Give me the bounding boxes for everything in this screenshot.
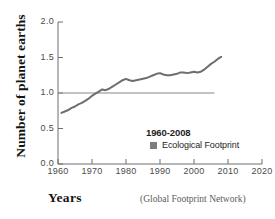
x-axis-title: Years	[48, 190, 82, 206]
x-tick-marks	[58, 159, 262, 164]
chart-figure: Number of planet earths 0.0 0.5 1.0 1.5 …	[0, 0, 275, 219]
x-tick-label: 2020	[245, 166, 275, 176]
legend-title: 1960-2008	[146, 127, 239, 138]
chart-legend: 1960-2008 Ecological Footprint	[146, 127, 239, 150]
chart-plot-area	[0, 0, 275, 219]
legend-entry: Ecological Footprint	[150, 140, 239, 150]
x-tick-label: 2010	[211, 166, 245, 176]
x-tick-label: 1980	[109, 166, 143, 176]
legend-entry-label: Ecological Footprint	[162, 140, 239, 150]
source-attribution: (Global Footprint Network)	[140, 194, 246, 204]
x-tick-label: 1970	[75, 166, 109, 176]
x-tick-label: 2000	[177, 166, 211, 176]
x-axis-tick-labels: 1960 1970 1980 1990 2000 2010 2020	[0, 166, 275, 180]
data-line-ecological-footprint	[61, 57, 221, 113]
legend-swatch-icon	[150, 142, 157, 149]
x-tick-label: 1990	[143, 166, 177, 176]
x-tick-label: 1960	[41, 166, 75, 176]
